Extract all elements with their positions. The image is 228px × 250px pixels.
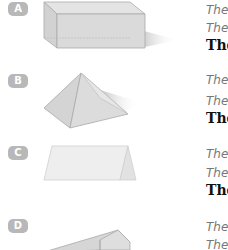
line-2: The bbox=[206, 166, 228, 180]
line-1: The bbox=[206, 3, 228, 17]
line-1: The bbox=[206, 73, 228, 87]
line-2: The bbox=[206, 94, 228, 108]
line-2: The bbox=[206, 238, 228, 250]
line-3: The bbox=[206, 110, 228, 126]
wedge-icon bbox=[0, 210, 190, 250]
square-pyramid-icon bbox=[0, 60, 190, 130]
triangular-prism-icon bbox=[0, 130, 190, 190]
line-1: The bbox=[206, 220, 228, 234]
line-3: The bbox=[206, 182, 228, 198]
line-3: The bbox=[206, 37, 228, 53]
line-1: The bbox=[206, 147, 228, 161]
rectangular-prism-icon bbox=[0, 0, 190, 52]
line-2: The bbox=[206, 21, 228, 35]
